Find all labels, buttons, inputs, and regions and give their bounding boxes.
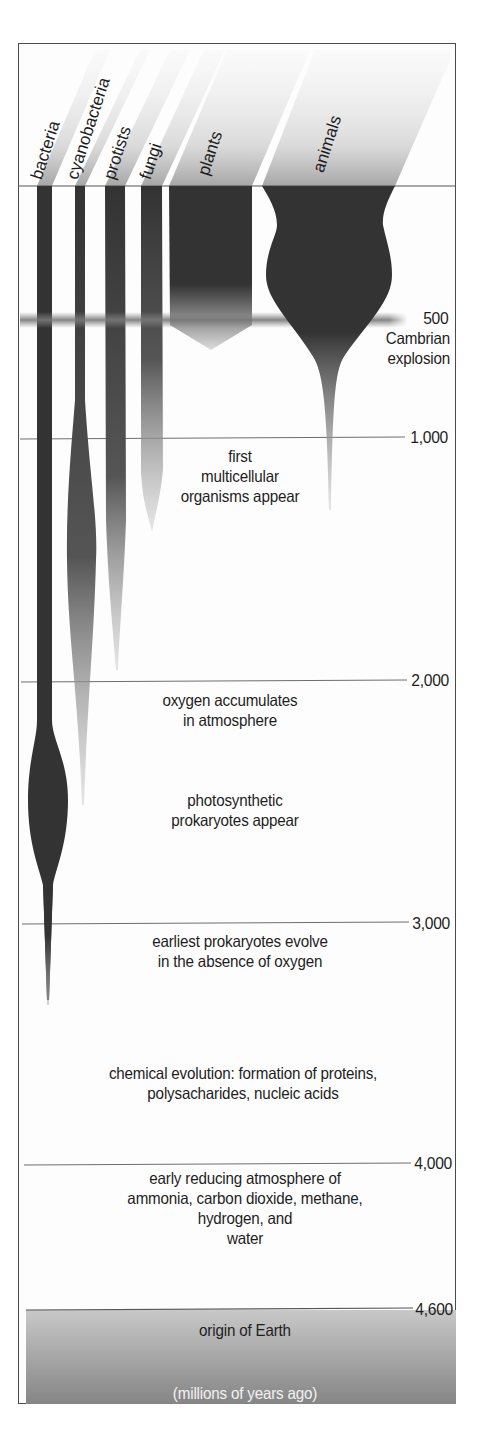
tick-3000: 3,000 [412, 914, 450, 934]
event-cambrian: Cambrian explosion [365, 328, 450, 368]
tick-500: 500 [423, 309, 448, 329]
lineage-cyanobacteria [67, 186, 96, 805]
event-multicellular: first multicellular organisms appear [157, 446, 323, 506]
tick-4600: 4,600 [415, 1300, 453, 1320]
units-label: (millions of years ago) [130, 1383, 360, 1403]
lineage-protists [105, 186, 126, 670]
event-photosynthetic: photosynthetic prokaryotes appear [138, 790, 331, 830]
event-chemical: chemical evolution: formation of protein… [38, 1063, 448, 1103]
tick-1000: 1,000 [410, 428, 448, 448]
event-earliest: earliest prokaryotes evolve in the absen… [107, 931, 374, 971]
event-reducing: early reducing atmosphere of ammonia, ca… [56, 1168, 433, 1248]
lineage-bacteria [28, 186, 68, 1000]
event-oxygen: oxygen accumulates in atmosphere [138, 690, 322, 730]
tick-2000: 2,000 [411, 671, 449, 691]
event-origin: origin of Earth [130, 1320, 360, 1340]
